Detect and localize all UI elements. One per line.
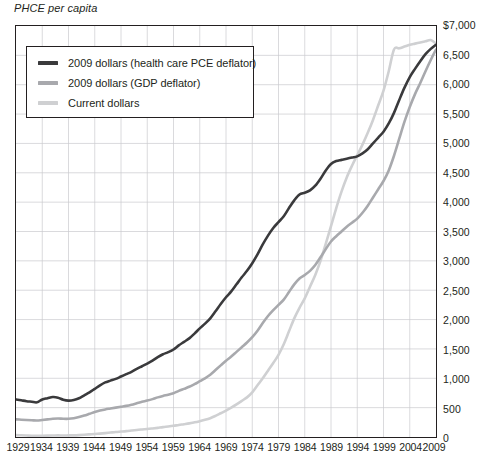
- x-axis-tick-label: 1964: [188, 441, 211, 453]
- x-axis-tick-label: 1939: [56, 441, 79, 453]
- x-axis-tick-labels: 1929193419391944194919541959196419691974…: [0, 441, 497, 461]
- y-axis-tick-label: 4,500: [443, 167, 470, 179]
- legend-swatch-icon: [38, 81, 58, 84]
- x-axis-tick-label: 1969: [215, 441, 238, 453]
- legend-item[interactable]: Current dollars: [27, 93, 253, 113]
- legend-item-label: 2009 dollars (GDP deflator): [68, 77, 200, 89]
- y-axis-tick-label: 3,500: [443, 226, 470, 238]
- legend-item-label: 2009 dollars (health care PCE deflator): [68, 57, 256, 69]
- legend-item[interactable]: 2009 dollars (health care PCE deflator): [27, 53, 253, 73]
- x-axis-tick-label: 1929: [7, 441, 30, 453]
- y-axis-tick-label: 5,500: [443, 108, 470, 120]
- chart-legend: 2009 dollars (health care PCE deflator) …: [26, 46, 254, 118]
- legend-swatch-icon: [38, 101, 58, 104]
- y-axis-tick-label: 500: [443, 403, 461, 415]
- y-axis-tick-labels: $7,0006,5006,0005,5005,0004,5004,0003,50…: [443, 0, 497, 462]
- x-axis-tick-label: 1994: [346, 441, 369, 453]
- chart-container: PHCE per capita 2009 dollars (health car…: [0, 0, 497, 462]
- legend-swatch-icon: [38, 61, 58, 64]
- y-axis-tick-label: 6,000: [443, 78, 470, 90]
- y-axis-tick-label: 1,000: [443, 373, 470, 385]
- x-axis-tick-label: 1934: [30, 441, 53, 453]
- y-axis-tick-label: 5,000: [443, 137, 470, 149]
- x-axis-tick-label: 1944: [83, 441, 106, 453]
- y-axis-tick-label: 2,500: [443, 285, 470, 297]
- x-axis-tick-label: 1999: [373, 441, 396, 453]
- y-axis-tick-label: 6,500: [443, 49, 470, 61]
- x-axis-tick-label: 2009: [423, 441, 446, 453]
- legend-item-label: Current dollars: [68, 97, 139, 109]
- y-axis-tick-label: 4,000: [443, 196, 470, 208]
- x-axis-tick-label: 1989: [320, 441, 343, 453]
- x-axis-tick-label: 1949: [109, 441, 132, 453]
- y-axis-tick-label: 1,500: [443, 344, 470, 356]
- y-axis-tick-label: 2,000: [443, 314, 470, 326]
- x-axis-tick-label: 1954: [135, 441, 158, 453]
- legend-item[interactable]: 2009 dollars (GDP deflator): [27, 73, 253, 93]
- x-axis-tick-label: 1974: [241, 441, 264, 453]
- y-axis-tick-label: 3,000: [443, 255, 470, 267]
- y-axis-title: PHCE per capita: [14, 2, 97, 14]
- x-axis-tick-label: 1979: [267, 441, 290, 453]
- x-axis-tick-label: 2004: [399, 441, 422, 453]
- x-axis-tick-label: 1959: [162, 441, 185, 453]
- y-axis-tick-label: $7,000: [443, 19, 476, 31]
- x-axis-tick-label: 1984: [294, 441, 317, 453]
